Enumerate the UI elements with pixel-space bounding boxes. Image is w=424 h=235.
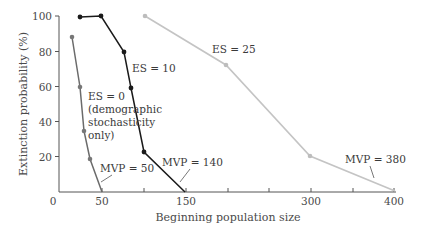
x-tick-label: 400 [384, 195, 404, 207]
y-axis-title: Extinction probability (%) [17, 32, 30, 176]
x-tick-label: 300 [301, 195, 321, 207]
x-tick-labels: 0 50 150 300 400 [50, 195, 404, 207]
annotations: ES = 0 (demographic stochasticity only) … [88, 43, 406, 182]
es10-label: ES = 10 [132, 62, 176, 74]
x-ticks [102, 188, 394, 192]
y-tick-label: 40 [39, 116, 52, 128]
es25-label: ES = 25 [212, 43, 256, 55]
mvp380-label: MVP = 380 [345, 153, 406, 165]
mvp50-label: MVP = 50 [100, 162, 154, 174]
x-tick-label: 150 [176, 195, 196, 207]
mvp140-label: MVP = 140 [162, 156, 223, 168]
x-tick-label: 50 [95, 195, 108, 207]
y-tick-label: 80 [39, 46, 52, 58]
y-tick-label: 100 [32, 10, 52, 22]
y-ticks [55, 16, 59, 157]
es0-label: stochasticity [88, 116, 155, 128]
x-tick-label: 0 [50, 195, 57, 207]
es0-label: ES = 0 [88, 90, 125, 102]
y-tick-label: 20 [39, 151, 52, 163]
es0-label: (demographic [88, 103, 162, 115]
es0-label: only) [88, 129, 114, 141]
x-axis-title: Beginning population size [156, 211, 301, 224]
y-tick-labels: 100 80 60 40 20 [32, 10, 52, 163]
y-tick-label: 60 [39, 81, 52, 93]
extinction-chart: 100 80 60 40 20 0 50 150 300 400 Beginni… [0, 0, 424, 235]
